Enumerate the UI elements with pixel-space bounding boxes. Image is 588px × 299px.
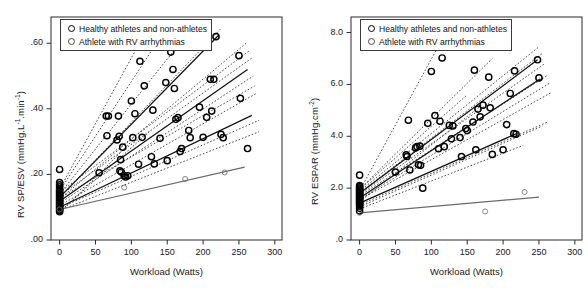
bold-circle-icon <box>364 25 379 32</box>
y-tick-label: .0 <box>303 234 343 244</box>
y-tick-label: .40 <box>3 103 43 113</box>
x-tick-label: 50 <box>79 247 111 257</box>
legend-item-healthy: Healthy athletes and non-athletes <box>364 22 507 35</box>
x-tick-label: 200 <box>487 247 519 257</box>
y-tick-label: 8.0 <box>303 27 343 37</box>
legend-item-arrhythmia: Athlete with RV arrhythmias <box>364 35 507 48</box>
figure-container: RV SP/ESV (mmHg.L-1.min-1) Workload (Wat… <box>0 0 588 299</box>
thin-circle-icon <box>64 38 79 45</box>
legend-item-arrhythmia: Athlete with RV arrhythmias <box>64 35 207 48</box>
x-tick-label: 50 <box>379 247 411 257</box>
x-tick-label: 100 <box>115 247 147 257</box>
x-tick-label: 250 <box>523 247 555 257</box>
thin-circle-icon <box>364 38 379 45</box>
y-tick-label: .00 <box>3 234 43 244</box>
panel-left: RV SP/ESV (mmHg.L-1.min-1) Workload (Wat… <box>0 0 294 299</box>
y-tick-label: 4.0 <box>303 130 343 140</box>
x-tick-label: 250 <box>223 247 255 257</box>
panel-left-legend: Healthy athletes and non-athletes Athlet… <box>60 19 212 51</box>
panel-right: RV ESPAR (mmHg.cm-2) Workload (Watts) He… <box>294 0 588 299</box>
legend-label-healthy: Healthy athletes and non-athletes <box>79 24 207 34</box>
bold-circle-icon <box>64 25 79 32</box>
panel-right-legend: Healthy athletes and non-athletes Athlet… <box>360 19 512 51</box>
x-tick-label: 300 <box>559 247 588 257</box>
legend-label-arrhythmia: Athlete with RV arrhythmias <box>79 37 185 47</box>
x-tick-label: 150 <box>151 247 183 257</box>
x-tick-label: 300 <box>259 247 291 257</box>
y-tick-label: 6.0 <box>303 78 343 88</box>
legend-label-healthy: Healthy athletes and non-athletes <box>379 24 507 34</box>
x-tick-label: 150 <box>451 247 483 257</box>
panel-left-x-axis-label: Workload (Watts) <box>51 266 282 277</box>
y-tick-label: 2.0 <box>303 182 343 192</box>
legend-item-healthy: Healthy athletes and non-athletes <box>64 22 207 35</box>
y-tick-label: .60 <box>3 37 43 47</box>
x-tick-label: 200 <box>187 247 219 257</box>
x-tick-label: 100 <box>415 247 447 257</box>
panel-right-x-axis-label: Workload (Watts) <box>351 266 582 277</box>
y-tick-label: .20 <box>3 168 43 178</box>
x-tick-label: 0 <box>344 247 376 257</box>
legend-label-arrhythmia: Athlete with RV arrhythmias <box>379 37 485 47</box>
x-tick-label: 0 <box>44 247 76 257</box>
